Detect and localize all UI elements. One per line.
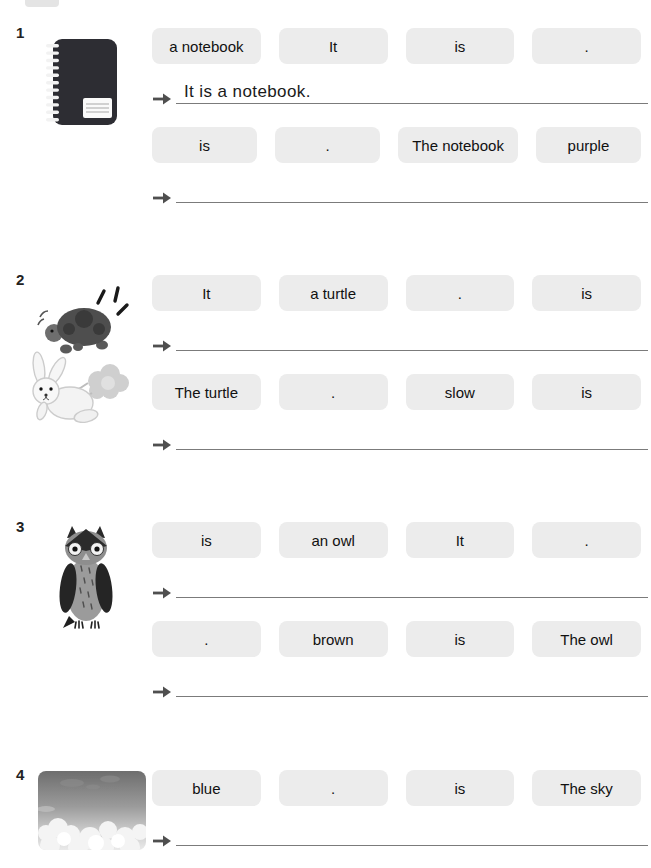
word-chip-row: isan owlIt. xyxy=(152,522,641,558)
word-chip: blue xyxy=(152,770,261,806)
word-chip: a turtle xyxy=(279,275,388,311)
answer-area xyxy=(152,311,641,351)
word-chip: is xyxy=(406,28,515,64)
answer-line xyxy=(176,202,648,203)
word-chip: . xyxy=(532,522,641,558)
answer-line xyxy=(176,597,648,598)
cropped-page-tab xyxy=(25,0,59,7)
answer-area xyxy=(152,410,641,450)
word-chip: is xyxy=(152,127,257,163)
word-chip: is xyxy=(406,621,515,657)
answer-line xyxy=(176,845,648,846)
exercise-number: 4 xyxy=(16,766,24,783)
word-chip: . xyxy=(275,127,380,163)
arrow-right-icon xyxy=(152,834,172,848)
answer-line xyxy=(176,449,648,450)
exercise-2: 2 xyxy=(0,275,651,450)
word-chip-row: .brownisThe owl xyxy=(152,621,641,657)
word-chip: purple xyxy=(536,127,641,163)
answer-area xyxy=(152,657,641,697)
word-chip: . xyxy=(532,28,641,64)
arrow-right-icon xyxy=(152,685,172,699)
turtle-and-rabbit-image xyxy=(26,283,132,431)
answer-area xyxy=(152,558,641,598)
word-chip: The owl xyxy=(532,621,641,657)
arrow-right-icon xyxy=(152,438,172,452)
answer-line xyxy=(176,103,648,104)
word-chip-row: is.The notebookpurple xyxy=(152,127,641,163)
exercise-3: 3 xyxy=(0,522,651,697)
word-chip: The sky xyxy=(532,770,641,806)
exercise-1: 1 a notebookItis. xyxy=(0,28,651,203)
exercise-number: 3 xyxy=(16,518,24,535)
answer-area: It is a notebook. xyxy=(152,64,641,104)
answer-line xyxy=(176,350,648,351)
word-chip: . xyxy=(152,621,261,657)
exercise-number: 2 xyxy=(16,271,24,288)
word-chip: . xyxy=(406,275,515,311)
word-chip: . xyxy=(279,374,388,410)
exercise-number: 1 xyxy=(16,24,24,41)
word-chip: brown xyxy=(279,621,388,657)
answer-text: It is a notebook. xyxy=(184,82,311,102)
word-chip: is xyxy=(406,770,515,806)
sky-image xyxy=(38,771,146,850)
notebook-image xyxy=(45,38,119,128)
answer-area xyxy=(152,806,641,846)
arrow-right-icon xyxy=(152,92,172,106)
answer-line xyxy=(176,696,648,697)
word-chip-row: a notebookItis. xyxy=(152,28,641,64)
word-chip: It xyxy=(279,28,388,64)
word-chip: is xyxy=(532,275,641,311)
word-chip: is xyxy=(532,374,641,410)
word-chip: It xyxy=(406,522,515,558)
worksheet-page: 1 a notebookItis. xyxy=(0,0,651,868)
word-chip: slow xyxy=(406,374,515,410)
word-chip: It xyxy=(152,275,261,311)
word-chip: a notebook xyxy=(152,28,261,64)
word-chip: . xyxy=(279,770,388,806)
word-chip-row: Ita turtle.is xyxy=(152,275,641,311)
word-chip: is xyxy=(152,522,261,558)
word-chip: an owl xyxy=(279,522,388,558)
word-chip: The notebook xyxy=(398,127,518,163)
word-chip: The turtle xyxy=(152,374,261,410)
word-chip-row: blue.isThe sky xyxy=(152,770,641,806)
owl-image xyxy=(55,524,117,636)
word-chip-row: The turtle.slowis xyxy=(152,374,641,410)
answer-area xyxy=(152,163,641,203)
exercise-4: 4 xyxy=(0,770,651,846)
arrow-right-icon xyxy=(152,339,172,353)
arrow-right-icon xyxy=(152,191,172,205)
arrow-right-icon xyxy=(152,586,172,600)
